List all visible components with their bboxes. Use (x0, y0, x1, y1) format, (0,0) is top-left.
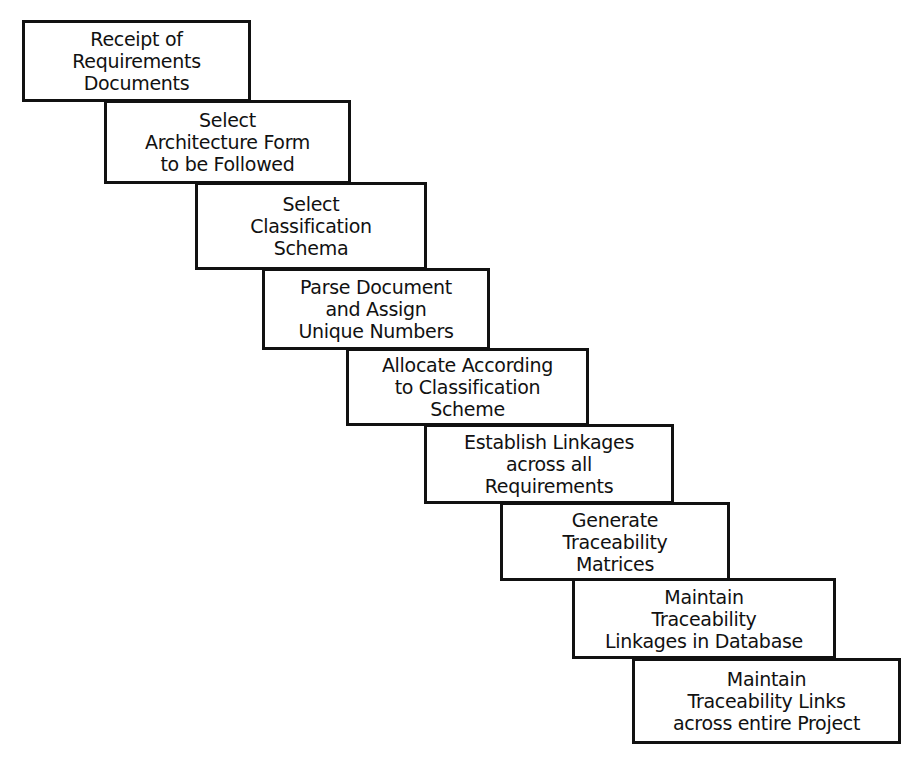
process-step-7: GenerateTraceabilityMatrices (500, 502, 730, 581)
step-label-line: Architecture Form (145, 131, 310, 153)
step-label-line: Scheme (430, 398, 505, 420)
step-label-line: Select (199, 109, 256, 131)
step-label-line: Establish Linkages (464, 431, 634, 453)
process-step-3: SelectClassificationSchema (195, 182, 427, 270)
step-label-line: Unique Numbers (298, 320, 453, 342)
step-label-line: to Classification (395, 376, 541, 398)
process-step-8: MaintainTraceabilityLinkages in Database (572, 578, 836, 659)
step-label-line: across entire Project (673, 712, 860, 734)
step-label-line: Generate (572, 509, 658, 531)
process-step-4: Parse Documentand AssignUnique Numbers (262, 268, 490, 350)
process-step-5: Allocate Accordingto ClassificationSchem… (346, 348, 589, 426)
step-label-line: Traceability Links (687, 690, 845, 712)
step-label-line: Maintain (727, 668, 806, 690)
process-step-6: Establish Linkagesacross allRequirements (424, 424, 674, 504)
step-label-line: Receipt of (90, 28, 182, 50)
step-label-line: Schema (274, 237, 349, 259)
step-label-line: and Assign (326, 298, 427, 320)
step-label-line: Linkages in Database (605, 630, 803, 652)
step-label-line: Allocate According (382, 354, 553, 376)
process-step-9: MaintainTraceability Linksacross entire … (632, 658, 901, 744)
step-label-line: to be Followed (160, 153, 294, 175)
step-label-line: Documents (84, 72, 190, 94)
step-label-line: Requirements (72, 50, 201, 72)
step-label-line: Select (283, 193, 340, 215)
process-step-2: SelectArchitecture Formto be Followed (104, 100, 351, 184)
process-step-1: Receipt ofRequirementsDocuments (22, 20, 251, 102)
step-label-line: Matrices (576, 553, 654, 575)
step-label-line: Requirements (485, 475, 614, 497)
step-label-line: Traceability (562, 531, 667, 553)
step-label-line: Traceability (651, 608, 756, 630)
step-label-line: Maintain (664, 586, 743, 608)
step-label-line: across all (506, 453, 592, 475)
step-label-line: Classification (250, 215, 372, 237)
step-label-line: Parse Document (300, 276, 452, 298)
